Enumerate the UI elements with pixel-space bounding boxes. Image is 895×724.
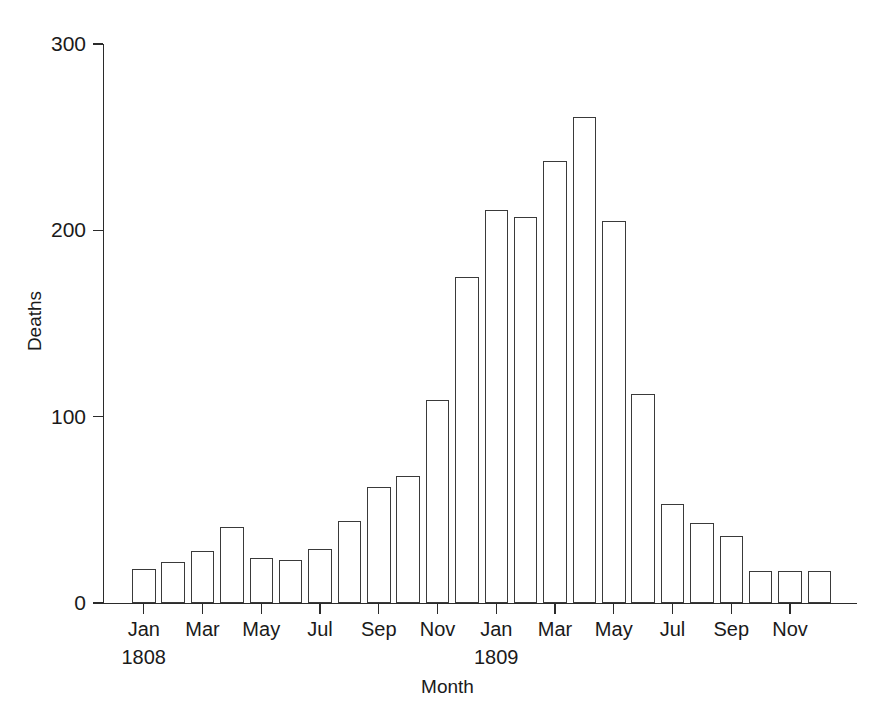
y-axis-tick <box>93 416 103 417</box>
y-axis-line <box>103 44 104 604</box>
x-axis-year-label: 1809 <box>474 646 519 669</box>
x-axis-tick-label: May <box>242 618 280 641</box>
x-axis-tick <box>261 604 262 614</box>
bar <box>132 569 156 603</box>
x-axis-tick-label: Jul <box>307 618 333 641</box>
x-axis-tick-label: Sep <box>713 618 749 641</box>
x-axis-tick-label: Nov <box>772 618 808 641</box>
x-axis-tick-label: Jul <box>660 618 686 641</box>
x-axis-tick-label: Sep <box>361 618 397 641</box>
bar <box>161 562 185 603</box>
bar <box>749 571 773 603</box>
x-axis-tick <box>554 604 555 614</box>
y-axis-tick-label: 100 <box>26 406 86 427</box>
x-axis-tick <box>437 604 438 614</box>
x-axis-tick <box>496 604 497 614</box>
bar-chart: 0100200300 Deaths Jan1808MarMayJulSepNov… <box>0 0 895 724</box>
x-axis-tick-label: Jan <box>128 618 160 641</box>
y-axis-tick <box>93 43 103 44</box>
y-axis-tick <box>93 230 103 231</box>
x-axis-tick-label: Nov <box>420 618 456 641</box>
bar <box>778 571 802 603</box>
bar <box>720 536 744 603</box>
bar <box>220 527 244 603</box>
x-axis-line <box>103 603 857 604</box>
bar <box>573 117 597 603</box>
bar <box>485 210 509 603</box>
bar <box>367 487 391 603</box>
y-axis-tick-label: 300 <box>26 33 86 54</box>
bar <box>338 521 362 603</box>
bar <box>279 560 303 603</box>
x-axis-tick <box>202 604 203 614</box>
bar <box>690 523 714 603</box>
x-axis-tick-label: Mar <box>185 618 219 641</box>
bar <box>250 558 274 603</box>
x-axis-tick-label: Mar <box>538 618 572 641</box>
bar <box>426 400 450 603</box>
x-axis-tick <box>789 604 790 614</box>
bar <box>514 217 538 603</box>
bar <box>543 161 567 603</box>
x-axis-tick <box>613 604 614 614</box>
bar <box>602 221 626 603</box>
x-axis-tick <box>143 604 144 614</box>
x-axis-tick <box>319 604 320 614</box>
x-axis-title: Month <box>0 676 895 698</box>
x-axis-tick <box>378 604 379 614</box>
y-axis-tick-label: 0 <box>26 592 86 613</box>
bar <box>191 551 215 603</box>
bar <box>396 476 420 603</box>
bar <box>308 549 332 603</box>
y-axis-title: Deaths <box>24 266 46 376</box>
x-axis-tick <box>731 604 732 614</box>
bar <box>631 394 655 603</box>
x-axis-tick-label: Jan <box>480 618 512 641</box>
x-axis-tick-label: May <box>595 618 633 641</box>
x-axis-tick <box>672 604 673 614</box>
y-axis-tick-label: 200 <box>26 219 86 240</box>
bar <box>808 571 832 603</box>
x-axis-year-label: 1808 <box>122 646 167 669</box>
bar <box>661 504 685 603</box>
bar <box>455 277 479 603</box>
y-axis-tick <box>93 602 103 603</box>
